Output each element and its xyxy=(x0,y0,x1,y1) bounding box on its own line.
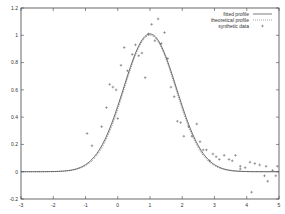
data-point-marker xyxy=(86,132,89,135)
y-tick-label: 0.6 xyxy=(11,87,18,93)
data-point-marker xyxy=(218,158,221,161)
x-tick-label: -3 xyxy=(19,202,24,208)
data-point-marker xyxy=(154,39,157,42)
data-point-marker xyxy=(131,53,134,56)
y-tick-label: 1 xyxy=(15,32,18,38)
data-point-marker xyxy=(202,149,205,152)
data-point-marker xyxy=(157,18,160,21)
x-tick-label: 3 xyxy=(213,202,216,208)
data-point-marker xyxy=(212,153,215,156)
x-tick-label: 4 xyxy=(245,202,248,208)
x-tick-label: 1 xyxy=(149,202,152,208)
gaussian-profile-chart: -0.200.20.40.60.811.2 -3-2-1012345 fitte… xyxy=(0,0,285,214)
y-tick-label: -0.2 xyxy=(9,196,18,202)
data-point-marker xyxy=(205,149,208,152)
y-tick-label: 0 xyxy=(15,169,18,175)
theoretical-profile-curve xyxy=(21,35,279,171)
data-point-marker xyxy=(266,180,269,183)
data-point-marker xyxy=(116,117,119,120)
data-point-marker xyxy=(144,76,147,79)
data-point-marker xyxy=(105,106,108,109)
data-point-marker xyxy=(195,123,198,126)
data-point-marker xyxy=(250,191,253,194)
x-axis-ticks: -3-2-1012345 xyxy=(19,8,281,208)
data-point-marker xyxy=(199,140,202,143)
data-point-marker xyxy=(108,83,111,86)
data-point-marker xyxy=(271,169,274,172)
legend-plus-marker-icon xyxy=(261,25,264,28)
data-point-marker xyxy=(263,175,266,178)
data-point-marker xyxy=(173,95,176,98)
y-tick-label: 0.8 xyxy=(11,59,18,65)
y-tick-label: 0.2 xyxy=(11,141,18,147)
data-point-marker xyxy=(150,23,153,26)
data-point-marker xyxy=(223,154,226,157)
data-point-marker xyxy=(120,64,123,67)
data-point-marker xyxy=(258,164,261,167)
legend: fitted profiletheoretical profilesynthet… xyxy=(211,11,272,29)
data-point-marker xyxy=(249,161,252,164)
data-point-marker xyxy=(170,86,173,89)
data-point-marker xyxy=(239,168,242,171)
y-axis-ticks: -0.200.20.40.60.811.2 xyxy=(9,5,279,202)
data-point-marker xyxy=(244,166,247,169)
data-point-marker xyxy=(163,31,166,34)
data-point-marker xyxy=(123,46,126,49)
x-tick-label: 5 xyxy=(278,202,281,208)
plot-frame xyxy=(21,8,279,199)
data-point-marker xyxy=(137,54,140,57)
y-tick-label: 1.2 xyxy=(11,5,18,11)
data-point-marker xyxy=(141,52,144,55)
data-point-marker xyxy=(179,121,182,124)
fitted-profile-curve xyxy=(21,34,279,172)
data-point-marker xyxy=(215,155,218,158)
y-tick-label: 0.4 xyxy=(11,114,18,120)
data-point-marker xyxy=(100,125,103,128)
data-point-marker xyxy=(274,175,277,178)
data-point-marker xyxy=(183,135,186,138)
data-point-marker xyxy=(112,86,115,89)
data-point-marker xyxy=(239,165,242,168)
data-point-marker xyxy=(254,162,257,165)
data-point-marker xyxy=(234,154,237,157)
data-point-marker xyxy=(265,165,268,168)
x-tick-label: -1 xyxy=(83,202,88,208)
data-point-marker xyxy=(91,144,94,147)
data-point-marker xyxy=(126,69,129,72)
x-tick-label: 0 xyxy=(116,202,119,208)
data-point-marker xyxy=(276,165,279,168)
data-point-marker xyxy=(231,160,234,163)
data-point-marker xyxy=(228,158,231,161)
data-point-marker xyxy=(176,120,179,123)
legend-label: synthetic data xyxy=(218,23,249,29)
x-tick-label: -2 xyxy=(51,202,56,208)
data-point-marker xyxy=(134,44,137,47)
data-point-marker xyxy=(115,89,118,92)
x-tick-label: 2 xyxy=(181,202,184,208)
